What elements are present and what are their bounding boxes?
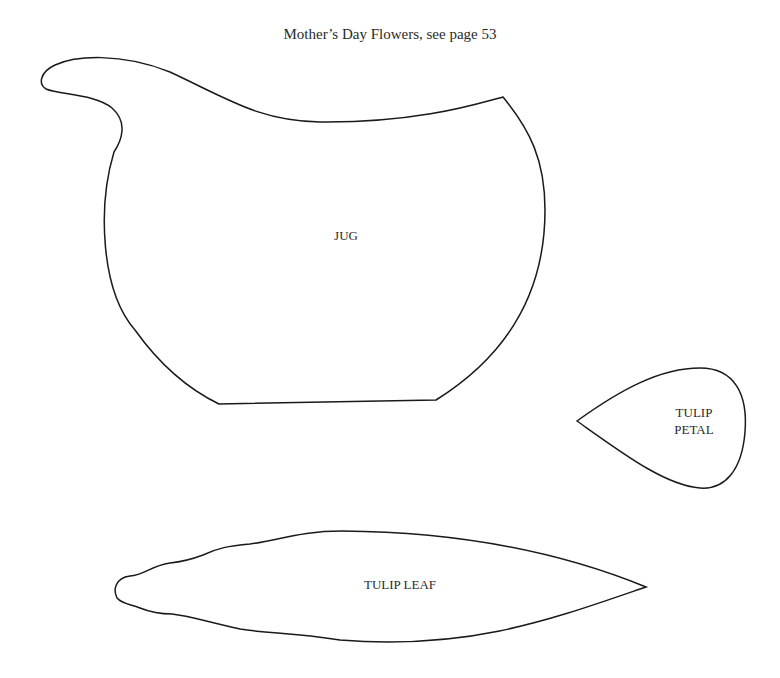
jug-label: JUG <box>316 227 376 244</box>
tulip-petal-label-line2: PETAL <box>664 421 724 438</box>
tulip-leaf-label: TULIP LEAF <box>345 576 455 593</box>
jug-outline <box>41 58 545 404</box>
tulip-petal-label-line1: TULIP <box>664 404 724 421</box>
tulip-petal-label: TULIP PETAL <box>664 404 724 438</box>
